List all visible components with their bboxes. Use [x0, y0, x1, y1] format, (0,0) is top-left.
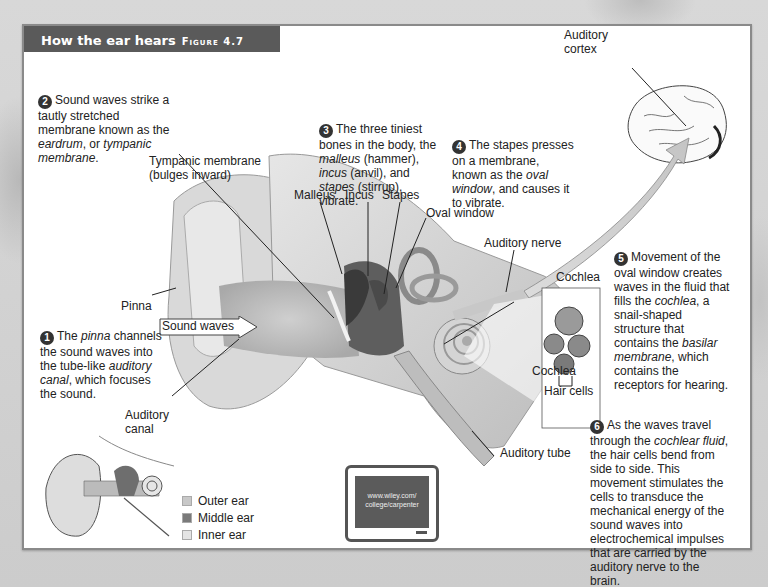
step-badge-6: 6 — [590, 420, 604, 434]
label-sound-waves: Sound waves — [162, 319, 234, 333]
inner-ear-swatch — [182, 530, 192, 540]
label-auditory-canal: Auditorycanal — [125, 408, 169, 436]
middle-ear-swatch — [182, 513, 192, 523]
step-badge-5: 5 — [614, 252, 628, 266]
label-malleus: Malleus — [294, 188, 335, 202]
step-badge-2: 2 — [38, 95, 52, 109]
callout-1: 1The pinna channels the sound waves into… — [40, 329, 170, 401]
callout-6: 6As the waves travel through the cochlea… — [590, 418, 730, 587]
callout-5: 5Movement of the oval window creates wav… — [614, 250, 732, 392]
step-badge-3: 3 — [319, 124, 333, 138]
label-cochlea: Cochlea — [556, 270, 600, 284]
label-stapes: Stapes — [382, 188, 419, 202]
label-oval-window: Oval window — [426, 206, 494, 220]
label-pinna: Pinna — [121, 299, 152, 313]
step-badge-1: 1 — [40, 331, 54, 345]
web-resource-monitor-icon[interactable]: www.wiley.com/ college/carpenter — [345, 465, 439, 542]
legend-item-middle-ear: Middle ear — [182, 509, 254, 526]
label-cochlea-inset: Cochlea — [532, 364, 576, 378]
monitor-screen: www.wiley.com/ college/carpenter — [355, 476, 429, 528]
callout-3: 3The three tiniest bones in the body, th… — [319, 122, 441, 208]
outer-ear-swatch — [182, 496, 192, 506]
ear-overview-thumbnail — [46, 436, 174, 536]
ear-region-legend: Outer ear Middle ear Inner ear — [182, 492, 254, 543]
label-auditory-cortex: Auditorycortex — [564, 28, 608, 56]
figure-frame: How the ear hearsFigure 4.7 — [22, 24, 752, 550]
step-badge-4: 4 — [452, 140, 466, 154]
label-tympanic-membrane: Tympanic membrane(bulges inward) — [149, 154, 261, 182]
label-auditory-nerve: Auditory nerve — [484, 236, 561, 250]
legend-item-outer-ear: Outer ear — [182, 492, 254, 509]
label-auditory-tube: Auditory tube — [500, 446, 571, 460]
label-incus: Incus — [345, 188, 374, 202]
label-hair-cells: Hair cells — [544, 384, 593, 398]
callout-4: 4The stapes presses on a membrane, known… — [452, 138, 577, 210]
monitor-button-icon — [416, 531, 427, 534]
legend-item-inner-ear: Inner ear — [182, 526, 254, 543]
